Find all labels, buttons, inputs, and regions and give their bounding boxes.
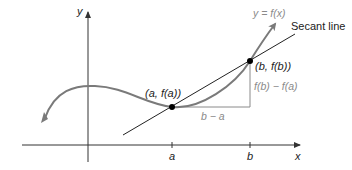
y-axis-label: y [76,5,84,17]
curve-label: y = f(x) [252,7,285,19]
rise-label: f(b) − f(a) [254,80,297,92]
tick-a-label: a [169,150,175,162]
point-a [169,104,175,110]
point-b-label: (b, f(b)) [255,60,291,72]
point-b [247,58,253,64]
point-a-label: (a, f(a)) [145,87,181,99]
secant-label: Secant line [291,20,345,32]
function-curve [45,24,275,118]
x-axis-label: x [294,150,301,162]
secant-diagram: y x a b y = f(x) Secant line (a, f(a)) (… [0,0,352,170]
run-label: b − a [201,110,225,122]
tick-b-label: b [247,150,253,162]
